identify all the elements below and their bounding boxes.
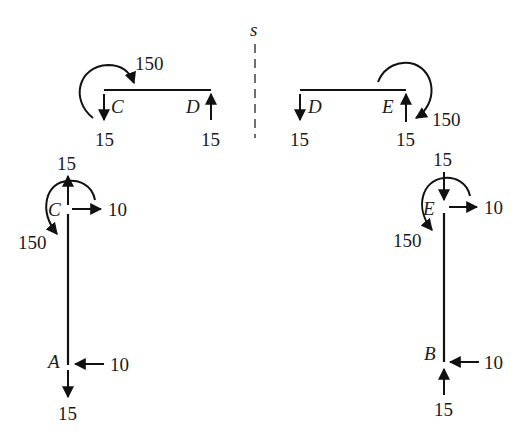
- symmetry-axis: s: [250, 19, 257, 138]
- point-label-d: D: [307, 96, 322, 117]
- beam-left: 150 C 15 D 15: [80, 53, 220, 150]
- moment-label-c: 150: [18, 232, 47, 253]
- moment-label-c: 150: [135, 53, 164, 74]
- force-label-a-vertical: 15: [58, 403, 77, 424]
- force-label-b-horizontal: 10: [484, 352, 503, 373]
- free-body-diagram: s 150 C 15 D 15 D 15 E 15 150 15: [0, 0, 523, 439]
- point-label-d: D: [185, 96, 200, 117]
- force-label-c-horizontal: 10: [108, 199, 127, 220]
- diagram-svg: s 150 C 15 D 15 D 15 E 15 150 15: [0, 0, 523, 439]
- column-left: 15 10 C 150 A 10 15: [18, 153, 129, 424]
- point-label-c: C: [111, 96, 124, 117]
- force-label-b-vertical: 15: [434, 399, 453, 420]
- point-label-e: E: [381, 96, 394, 117]
- force-label-e-vertical: 15: [433, 149, 452, 170]
- force-label-c: 15: [95, 129, 114, 150]
- point-label-b: B: [424, 343, 436, 364]
- symmetry-label: s: [250, 19, 257, 40]
- force-label-d: 15: [290, 129, 309, 150]
- force-label-a-horizontal: 10: [110, 354, 129, 375]
- moment-arrow-icon: [80, 65, 134, 118]
- force-label-d: 15: [201, 129, 220, 150]
- column-right: 15 10 E 150 B 10 15: [393, 149, 503, 420]
- beam-right: D 15 E 15 150: [290, 63, 461, 150]
- point-label-a: A: [46, 351, 60, 372]
- force-label-c-vertical: 15: [57, 153, 76, 174]
- force-label-e: 15: [396, 129, 415, 150]
- moment-label-e: 150: [393, 230, 422, 251]
- moment-label-e: 150: [432, 109, 461, 130]
- force-label-e-horizontal: 10: [484, 197, 503, 218]
- point-label-c: C: [48, 199, 61, 220]
